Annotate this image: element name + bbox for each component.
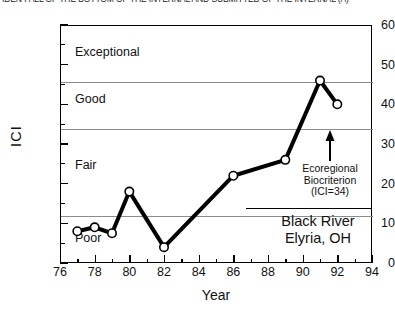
x-tick-84 — [199, 255, 200, 263]
x-label-86: 86 — [218, 266, 248, 279]
band-divider-exceptional — [61, 82, 373, 83]
y-label-30: 30 — [351, 138, 395, 150]
y-tick-45 — [60, 84, 65, 85]
x-tick-87 — [251, 259, 252, 264]
y-tick-40 — [60, 104, 68, 105]
x-tick-81 — [147, 259, 148, 264]
x-label-76: 76 — [45, 266, 75, 279]
x-label-84: 84 — [184, 266, 214, 279]
y-tick-5 — [60, 243, 65, 244]
x-tick-93 — [355, 259, 356, 264]
x-label-94: 94 — [357, 266, 387, 279]
y-label-40: 40 — [351, 98, 395, 110]
x-tick-91 — [320, 259, 321, 264]
y-axis-title: ICI — [8, 106, 24, 166]
y-tick-10 — [60, 223, 68, 224]
site-label: Black River Elyria, OH — [258, 213, 378, 247]
x-tick-89 — [285, 259, 286, 264]
band-label-exceptional: Exceptional — [75, 46, 140, 59]
x-tick-77 — [77, 259, 78, 264]
x-label-92: 92 — [322, 266, 352, 279]
x-tick-94 — [372, 255, 373, 263]
y-tick-15 — [60, 203, 65, 204]
y-tick-55 — [60, 44, 65, 45]
y-tick-0 — [60, 262, 68, 263]
x-tick-85 — [216, 259, 217, 264]
x-tick-88 — [268, 255, 269, 263]
biocriterion-line-3: (ICI=34) — [276, 186, 384, 198]
site-name: Black River — [258, 213, 378, 230]
y-tick-50 — [60, 64, 68, 65]
band-label-good: Good — [75, 93, 106, 106]
x-axis-title: Year — [60, 287, 372, 303]
x-tick-92 — [337, 255, 338, 263]
x-tick-80 — [129, 255, 130, 263]
x-label-78: 78 — [80, 266, 110, 279]
x-label-82: 82 — [149, 266, 179, 279]
x-tick-79 — [112, 259, 113, 264]
site-location: Elyria, OH — [258, 230, 378, 247]
x-label-80: 80 — [114, 266, 144, 279]
biocriterion-line-1: Ecoregional — [276, 163, 384, 175]
y-label-60: 60 — [351, 19, 395, 31]
x-label-90: 90 — [288, 266, 318, 279]
x-tick-78 — [95, 255, 96, 263]
y-label-50: 50 — [351, 59, 395, 71]
y-tick-25 — [60, 163, 65, 164]
x-label-88: 88 — [253, 266, 283, 279]
y-tick-35 — [60, 124, 65, 125]
y-tick-20 — [60, 183, 68, 184]
site-label-box-top-edge — [246, 208, 372, 209]
band-label-poor: Poor — [75, 232, 101, 245]
ecoregional-biocriterion-note: Ecoregional Biocriterion (ICI=34) — [276, 163, 384, 198]
y-tick-30 — [60, 143, 68, 144]
x-tick-82 — [164, 255, 165, 263]
x-tick-76 — [60, 255, 61, 263]
band-label-fair: Fair — [75, 159, 97, 172]
band-divider-good — [61, 129, 373, 130]
y-tick-60 — [60, 24, 68, 25]
x-tick-83 — [181, 259, 182, 264]
x-tick-90 — [303, 255, 304, 263]
ici-trend-chart: Exceptional Good Fair Poor 60 50 40 30 2… — [0, 0, 395, 328]
x-tick-86 — [233, 255, 234, 263]
